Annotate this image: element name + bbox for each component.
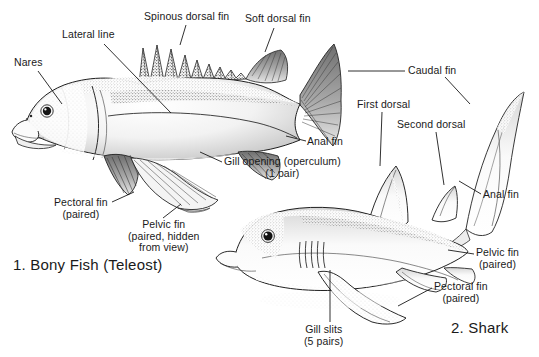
bony-fish-illustration (12, 44, 341, 212)
label-pectoral-fin-shark-line2: (paired) (434, 293, 488, 305)
label-gill-slits-line2: (5 pairs) (304, 336, 343, 348)
fish-anatomy-figure: Nares Lateral line Spinous dorsal fin So… (0, 0, 539, 357)
bony-fish-body (12, 77, 300, 160)
shark-snout (216, 251, 238, 267)
label-pectoral-fin-bony-line2: (paired) (54, 209, 108, 221)
label-gill-opening: Gill opening (operculum) (1 pair) (224, 156, 341, 179)
label-pelvic-fin-shark-line2: (paired) (476, 259, 519, 271)
leader-pelvic-bony (163, 204, 181, 218)
label-anal-fin-bony: Anal fin (307, 136, 343, 148)
label-gill-slits: Gill slits (5 pairs) (304, 324, 343, 347)
label-pectoral-fin-shark-line1: Pectoral fin (434, 281, 488, 293)
label-pelvic-fin-shark-line1: Pelvic fin (476, 247, 519, 259)
leader-pectoral-shark (398, 288, 432, 306)
label-gill-opening-line1: Gill opening (operculum) (224, 156, 341, 168)
leader-spinous-dorsal (180, 25, 186, 45)
label-pelvic-fin-shark: Pelvic fin (paired) (476, 247, 519, 270)
soft-dorsal-fin-art (246, 50, 288, 83)
label-pectoral-fin-shark: Pectoral fin (paired) (434, 281, 488, 304)
label-pectoral-fin-bony: Pectoral fin (paired) (54, 197, 108, 220)
leader-second-dorsal (436, 132, 444, 185)
label-pelvic-fin-bony-line1: Pelvic fin (128, 219, 200, 231)
shark-caudal-fin-art (436, 92, 524, 251)
second-dorsal-fin-art (432, 186, 457, 222)
label-first-dorsal: First dorsal (357, 99, 410, 111)
leader-soft-dorsal (265, 28, 274, 52)
label-second-dorsal: Second dorsal (397, 119, 465, 131)
label-anal-fin-shark: Anal fin (483, 189, 519, 201)
caudal-fin-art (300, 44, 341, 146)
label-spinous-dorsal-fin: Spinous dorsal fin (144, 11, 229, 23)
label-gill-opening-line2: (1 pair) (224, 168, 341, 180)
label-gill-slits-line1: Gill slits (304, 324, 343, 336)
caption-bony-fish: 1. Bony Fish (Teleost) (13, 256, 162, 273)
leader-first-dorsal (380, 112, 382, 166)
label-lateral-line: Lateral line (62, 29, 115, 41)
caption-shark: 2. Shark (451, 319, 508, 336)
label-pelvic-fin-bony-line3: from view) (128, 242, 200, 254)
nares-feature (30, 115, 33, 118)
label-soft-dorsal-fin: Soft dorsal fin (245, 13, 311, 25)
label-nares: Nares (14, 57, 43, 69)
label-pectoral-fin-bony-line1: Pectoral fin (54, 197, 108, 209)
leader-pectoral-bony (112, 192, 134, 202)
label-caudal-fin: Caudal fin (408, 65, 456, 77)
label-pelvic-fin-bony: Pelvic fin (paired, hidden from view) (128, 219, 200, 254)
pelvic-fin-bony-art (131, 158, 218, 212)
leader-caudal-to-shark-tail (445, 77, 470, 104)
